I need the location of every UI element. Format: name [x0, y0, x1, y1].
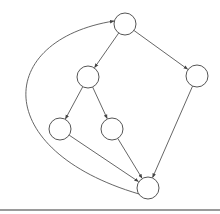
edges-layer	[26, 21, 193, 194]
edge-n1-to-n3	[134, 30, 188, 69]
edge-n6-to-n1	[26, 21, 139, 194]
edge-n3-to-n6	[153, 86, 193, 177]
edge-n2-to-n4	[65, 87, 82, 119]
edge-n5-to-n6	[118, 138, 142, 178]
graph-node-n4	[49, 118, 71, 140]
graph-node-n2	[77, 66, 99, 88]
graph-diagram	[0, 0, 220, 214]
edge-n1-to-n2	[95, 33, 119, 68]
bottom-divider	[0, 209, 220, 211]
graph-node-n3	[186, 65, 208, 87]
edge-n2-to-n5	[93, 87, 108, 119]
graph-node-n6	[137, 177, 159, 199]
graph-node-n5	[101, 118, 123, 140]
edge-n4-to-n6	[69, 135, 138, 181]
graph-node-n1	[114, 13, 136, 35]
